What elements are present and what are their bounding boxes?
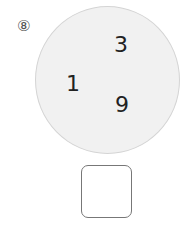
- number-3: 3: [114, 34, 128, 56]
- problem-number: ⑧: [17, 19, 30, 34]
- answer-box[interactable]: [81, 165, 132, 218]
- number-9: 9: [115, 94, 129, 116]
- number-circle: [35, 6, 180, 154]
- number-1: 1: [66, 73, 80, 95]
